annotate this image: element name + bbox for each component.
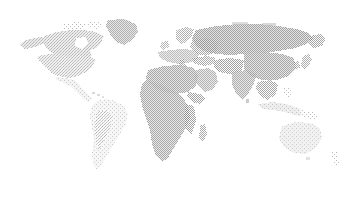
world-map xyxy=(0,0,354,203)
world-map-figure: North America Greenland South America Eu… xyxy=(0,0,354,203)
